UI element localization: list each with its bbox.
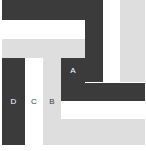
region-d-column — [2, 58, 25, 145]
right-white-column — [103, 0, 120, 82]
right-dark-column — [85, 0, 103, 82]
region-a-block — [61, 58, 85, 83]
lower-dark-band — [61, 83, 145, 101]
diagram-canvas: ABCD — [0, 0, 146, 151]
right-gray-column — [120, 0, 145, 82]
upper-gray-band — [2, 39, 85, 58]
upper-white-band — [2, 20, 85, 39]
lower-white-band — [61, 101, 145, 119]
region-b-column — [43, 58, 61, 145]
region-c-column — [25, 58, 43, 145]
top-dark-band — [2, 0, 85, 20]
lower-gray-band — [61, 119, 145, 145]
